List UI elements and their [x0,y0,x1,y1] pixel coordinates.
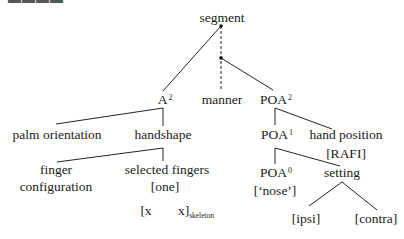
node-poa0: POA0 [260,165,292,180]
poa1-superscript: 1 [289,128,293,137]
skeleton-left-label: [x [140,203,151,218]
edge-setting-ipsi [309,182,342,206]
edge-poa2-handpos [275,108,332,129]
cropped-caption: ▬▬▬▬ [8,0,64,7]
node-contra: [contra] [355,211,398,226]
poa1-label: POA [261,127,288,142]
contra-label: [contra] [355,211,398,226]
poa2-label: POA [260,92,287,107]
skeleton-right-label: x] [178,203,189,218]
node-palm-orientation: palm orientation [13,127,102,142]
edge-segment-a2 [163,26,221,91]
edge-handshape-finger [57,148,163,162]
node-a2: A2 [158,92,173,107]
node-poa1: POA1 [261,127,293,142]
edge-setting-contra [342,182,377,210]
selected-fingers-value: [one] [151,179,179,194]
node-poa2: POA2 [260,92,292,107]
hand-position-label: hand position [309,127,382,142]
one-value: [one] [151,179,179,194]
skeleton-left: [x [140,203,151,218]
node-selected-fingers: selected fingers [125,162,209,177]
mid-dot [219,56,223,60]
skeleton-subscript: skeleton [189,211,214,220]
nose-value: [‘nose’] [254,183,297,198]
poa0-superscript: 0 [288,166,292,175]
node-finger-configuration-line1: finger [40,162,72,177]
selected-fingers-label: selected fingers [125,162,209,177]
edge-a2-palm [56,108,163,124]
setting-label: setting [324,165,360,180]
node-setting: setting [324,165,360,180]
ipsi-label: [ipsi] [292,211,321,226]
node-segment: segment [200,10,245,25]
manner-label: manner [202,92,242,107]
node-ipsi: [ipsi] [292,211,321,226]
skeleton-right: x]skeleton [178,203,214,220]
configuration-label: configuration [20,179,93,194]
poa0-value: [‘nose’] [254,183,297,198]
node-hand-position: hand position [309,127,382,142]
rafi-value: [RAFI] [326,146,366,161]
poa0-label: POA [260,165,287,180]
segment-label: segment [200,10,245,25]
finger-label: finger [40,162,72,177]
node-handshape: handshape [135,127,192,142]
node-manner: manner [202,92,242,107]
node-finger-configuration-line2: configuration [20,179,93,194]
a-label: A [158,92,168,107]
handshape-label: handshape [135,127,192,142]
edge-mid-poa2 [221,58,273,90]
poa2-superscript: 2 [288,93,292,102]
a-superscript: 2 [168,93,172,102]
hand-position-value: [RAFI] [326,146,366,161]
palm-orientation-label: palm orientation [13,127,102,142]
